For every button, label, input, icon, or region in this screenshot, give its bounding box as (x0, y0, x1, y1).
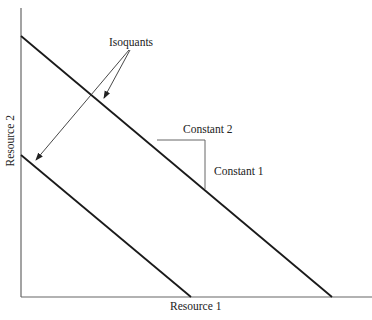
arrow-to-outer-isoquant (104, 50, 130, 98)
constant-2-label: Constant 2 (183, 124, 233, 136)
y-axis-label: Resource 2 (5, 111, 17, 171)
arrow-to-inner-isoquant (36, 50, 129, 160)
isoquants-label: Isoquants (109, 37, 153, 49)
isoquant-inner (21, 155, 191, 297)
diagram-canvas (0, 0, 372, 320)
constant-1-label: Constant 1 (214, 166, 264, 178)
x-axis-label: Resource 1 (170, 301, 221, 313)
isoquant-diagram: Isoquants Constant 2 Constant 1 Resource… (0, 0, 372, 320)
isoquant-outer (21, 36, 332, 297)
